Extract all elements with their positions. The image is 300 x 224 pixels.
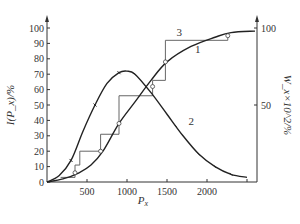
y-left-tick-label: 60 [34,84,44,95]
y-right-tick-label: 100 [261,23,276,34]
y-left-tick-label: 30 [34,130,44,141]
curve-labels: 123 [177,26,201,127]
series-1-markers [73,34,230,175]
x-axis-label: Px [137,194,149,208]
y-left-tick-label: 0 [39,177,44,188]
y-axis-left-arrow-icon [45,15,49,22]
y-left-tick-label: 70 [34,69,44,80]
y-left-tick-label: 80 [34,53,44,64]
x-tick-label: 1000 [117,186,137,197]
curve-label-3: 3 [177,26,183,38]
x-tick-label: 500 [80,186,95,197]
y-axis-right-arrow-icon [255,15,259,22]
y-axis-left-label: I(P_x)/% [4,85,17,126]
y-left-tick-label: 10 [34,161,44,172]
curve-label-1: 1 [195,43,201,55]
y-axis-right-label: W_x×10^2/% [282,75,294,135]
series-3-staircase [61,34,228,177]
curve-label-2: 2 [189,115,195,127]
x-tick-label: 1500 [157,186,177,197]
y-right-tick-label: 50 [261,100,271,111]
x-tick-label: 2000 [197,186,217,197]
chart: 0102030405060708090100 50100 50010001500… [0,0,300,224]
y-left-tick-label: 40 [34,115,44,126]
y-left-tick-label: 20 [34,146,44,157]
y-left-tick-label: 100 [29,23,44,34]
y-left-tick-label: 90 [34,38,44,49]
y-left-tick-label: 50 [34,100,44,111]
series-1-cumulative [47,31,255,182]
